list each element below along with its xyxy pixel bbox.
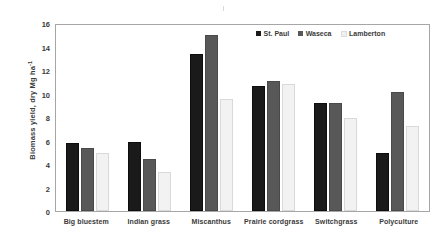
- bar[interactable]: [96, 153, 109, 211]
- bar[interactable]: [344, 118, 357, 211]
- bar[interactable]: [158, 172, 171, 211]
- x-axis-label: Miscanthus: [180, 218, 243, 225]
- x-axis-label: Prairie cordgrass: [243, 218, 306, 225]
- bar[interactable]: [66, 143, 79, 211]
- y-axis-tick-16: 16: [22, 20, 50, 29]
- bar[interactable]: [391, 92, 404, 211]
- x-axis-label: Polyculture: [368, 218, 431, 225]
- bar[interactable]: [406, 126, 419, 211]
- y-axis-tick-0: 0: [22, 208, 50, 217]
- x-axis-label: Indian grass: [118, 218, 181, 225]
- y-axis-tick-6: 6: [22, 137, 50, 146]
- bar[interactable]: [267, 81, 280, 211]
- y-axis-tick-10: 10: [22, 90, 50, 99]
- bar-groups-container: [56, 25, 429, 211]
- x-axis-label: Switchgrass: [305, 218, 368, 225]
- bar[interactable]: [128, 142, 141, 211]
- y-axis-tick-12: 12: [22, 67, 50, 76]
- top-artifact-mark: [223, 6, 224, 11]
- bar-group: [180, 25, 242, 211]
- y-axis-tick-4: 4: [22, 161, 50, 170]
- bar[interactable]: [376, 153, 389, 211]
- bar-group: [118, 25, 180, 211]
- legend-swatch-icon: [298, 31, 303, 36]
- legend-label: St. Paul: [264, 30, 290, 37]
- bar-group: [56, 25, 118, 211]
- bar[interactable]: [220, 99, 233, 211]
- legend-item[interactable]: St. Paul: [256, 30, 289, 37]
- bar[interactable]: [314, 103, 327, 211]
- legend-swatch-icon: [256, 31, 261, 36]
- bar[interactable]: [282, 84, 295, 211]
- bar[interactable]: [205, 35, 218, 211]
- bar[interactable]: [81, 148, 94, 211]
- legend-label: Waseca: [306, 30, 332, 37]
- biomass-yield-bar-chart: Biomass yield, dry Mg ha-1 1614121086420…: [0, 0, 448, 246]
- x-axis-label: Big bluestem: [55, 218, 118, 225]
- bar-group: [305, 25, 367, 211]
- bar[interactable]: [190, 54, 203, 211]
- bar[interactable]: [143, 159, 156, 211]
- y-axis-tick-8: 8: [22, 114, 50, 123]
- bar-group: [243, 25, 305, 211]
- y-axis-tick-2: 2: [22, 184, 50, 193]
- bar[interactable]: [252, 86, 265, 211]
- x-axis-category-labels: Big bluestemIndian grassMiscanthusPrairi…: [55, 218, 430, 225]
- legend-item[interactable]: Waseca: [298, 30, 331, 37]
- legend-label: Lamberton: [349, 30, 385, 37]
- y-axis-tick-labels: 1614121086420: [22, 24, 50, 212]
- y-axis-tick-14: 14: [22, 43, 50, 52]
- plot-area: [55, 24, 430, 212]
- chart-legend: St. PaulWasecaLamberton: [256, 30, 385, 37]
- bar[interactable]: [329, 103, 342, 211]
- legend-item[interactable]: Lamberton: [341, 30, 386, 37]
- legend-swatch-icon: [341, 31, 347, 37]
- bar-group: [367, 25, 429, 211]
